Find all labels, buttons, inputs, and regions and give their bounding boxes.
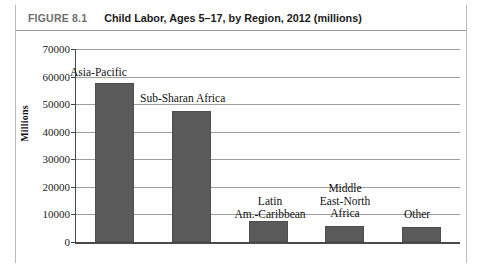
figure-container: FIGURE 8.1 Child Labor, Ages 5–17, by Re… — [0, 0, 478, 268]
y-axis-tickmark — [71, 104, 76, 105]
y-axis-tick-label: 70000 — [22, 44, 70, 55]
bar — [325, 226, 364, 242]
bar — [172, 111, 211, 242]
y-axis-tickmark — [71, 187, 76, 188]
bar — [402, 227, 441, 242]
bar-category-label: Other — [382, 208, 452, 221]
bar-category-label: Sub-Sharan Africa — [140, 92, 280, 105]
bar-category-label: Asia-Pacific — [70, 66, 180, 79]
y-axis-tick-label: 10000 — [22, 209, 70, 220]
y-axis-tickmark — [71, 214, 76, 215]
y-axis-tick-label: 60000 — [22, 71, 70, 82]
y-axis-tick-label: 50000 — [22, 99, 70, 110]
y-axis-tick-label: 0 — [22, 237, 70, 248]
y-axis-tick-label: 30000 — [22, 154, 70, 165]
bar — [249, 221, 288, 242]
y-axis-tickmark — [71, 49, 76, 50]
y-axis-tick-label: 20000 — [22, 181, 70, 192]
y-axis-tickmark — [71, 242, 76, 243]
y-axis-tickmark — [71, 159, 76, 160]
bar — [95, 83, 134, 242]
y-axis-tickmark — [71, 132, 76, 133]
y-axis-tick-label: 40000 — [22, 126, 70, 137]
bar-category-label: Middle East-North Africa — [300, 182, 390, 220]
gridline — [76, 49, 460, 50]
gridline — [76, 242, 460, 243]
chart-plot-area: Millions 0100002000030000400005000060000… — [0, 0, 478, 268]
